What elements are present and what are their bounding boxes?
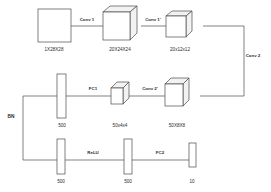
node-input-square	[38, 9, 71, 42]
node-bn-out-bar	[57, 139, 65, 174]
node-pool1-out-cube	[166, 11, 192, 37]
label-bn-out: 500	[57, 179, 65, 184]
label-edge-fc1: FC1	[89, 86, 98, 91]
label-edge-conv2: Conv 2	[246, 53, 261, 58]
label-edge-fc2: FC2	[156, 150, 165, 155]
label-edge-bn: BN	[8, 114, 15, 119]
label-relu-out: 500	[124, 179, 132, 184]
label-fc1-in: 500	[58, 123, 66, 128]
node-relu-out-bar	[124, 139, 132, 174]
connector-bn-path	[23, 96, 58, 160]
label-conv2p-in: 50x4x4	[113, 123, 128, 128]
node-conv1-out-cube	[103, 6, 137, 40]
label-conv2-out: 50X8X8	[169, 123, 186, 128]
connector-conv2-path	[200, 26, 244, 96]
label-edge-relu: ReLU	[87, 150, 98, 155]
node-conv2p-in-cube	[111, 82, 129, 104]
node-output-bar	[189, 143, 196, 167]
label-edge-conv1: Conv 1	[80, 17, 95, 22]
node-conv2-out-cube	[165, 78, 189, 106]
label-output: 10	[189, 179, 195, 184]
architecture-diagram: 1X28X28 20X24X24 20x12x12 Conv 1 Conv 1'…	[0, 0, 271, 192]
label-pool1-out: 20x12x12	[170, 47, 190, 52]
node-fc1-in-bar	[57, 74, 66, 118]
architecture-svg: 1X28X28 20X24X24 20x12x12 Conv 1 Conv 1'…	[0, 0, 271, 192]
label-input: 1X28X28	[45, 47, 64, 52]
label-conv1-out: 20X24X24	[109, 47, 131, 52]
label-edge-conv1-prime: Conv 1'	[145, 17, 161, 22]
label-edge-conv2-prime: Conv 2'	[142, 86, 158, 91]
